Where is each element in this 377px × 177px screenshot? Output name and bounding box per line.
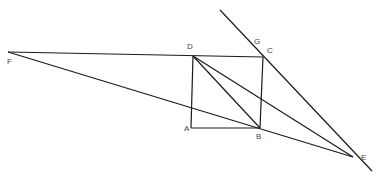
segment-FC	[8, 52, 263, 57]
geometry-diagram: A B C D E F G	[0, 0, 377, 177]
line-GCE	[220, 10, 372, 171]
label-G: G	[254, 37, 260, 46]
label-F: F	[7, 57, 12, 66]
label-E: E	[361, 153, 366, 162]
segment-BC	[260, 57, 263, 128]
segment-DA	[191, 56, 193, 128]
label-A: A	[184, 124, 190, 133]
label-C: C	[267, 46, 273, 55]
segment-DE	[193, 56, 353, 157]
label-D: D	[187, 42, 193, 51]
segment-FE	[8, 52, 353, 157]
label-B: B	[256, 132, 261, 141]
